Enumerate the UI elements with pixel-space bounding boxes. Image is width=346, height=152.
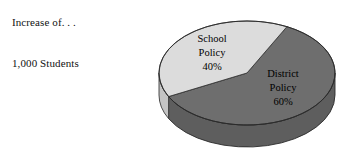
slice-label-district-policy-percent: 60% — [273, 96, 293, 107]
chart-canvas: Increase of. . . 1,000 Students School P… — [0, 0, 346, 152]
slice-label-school-policy-percent: 40% — [202, 61, 222, 72]
slice-label-school-policy-line2: Policy — [199, 47, 227, 58]
slice-label-school-policy-line1: School — [197, 33, 226, 44]
slice-label-district-policy-line1: District — [267, 68, 299, 79]
pie-chart-svg: School Policy 40% District Policy 60% — [0, 0, 346, 152]
pie-chart: School Policy 40% District Policy 60% — [0, 0, 346, 152]
slice-label-district-policy-line2: Policy — [270, 82, 298, 93]
